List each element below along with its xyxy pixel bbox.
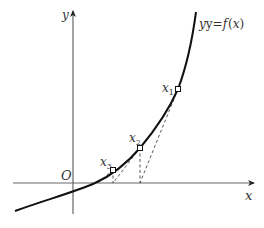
origin-label: O [61,168,72,183]
label-x2: x2 [129,131,141,147]
curve-label-eq: y= [205,17,223,31]
y-axis-label: y [61,8,69,22]
point-x1 [176,87,181,92]
label-x1: x1 [162,81,174,97]
x-axis-label: x [245,188,253,203]
label-x3: x3 [100,155,112,171]
curve-label: yy=f(x) [198,17,244,31]
newton-method-diagram: y x O yy=f(x) x1 x2 x3 [0,0,264,228]
